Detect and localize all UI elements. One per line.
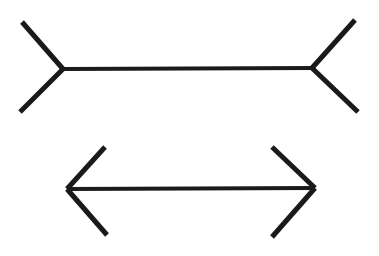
top-shaft (63, 68, 312, 69)
muller-lyer-figure (0, 0, 379, 256)
bottom-shaft (67, 188, 315, 189)
illusion-canvas: Two horizontal line segments of equal le… (0, 0, 379, 256)
canvas-background (0, 0, 379, 256)
